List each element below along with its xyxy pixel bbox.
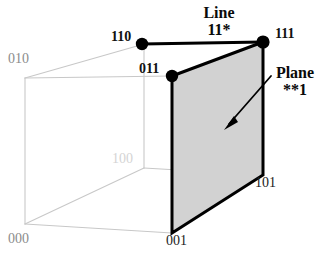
- annotation-plane-title: Plane: [264, 65, 326, 82]
- vertex-label-110: 110: [111, 30, 131, 44]
- figure-canvas: 010 110 011 111 100 101 000 001 Line 11*…: [0, 0, 330, 254]
- line-11star-segment: [142, 42, 263, 44]
- annotation-plane: Plane **1: [264, 65, 326, 99]
- annotation-plane-code: **1: [264, 82, 326, 99]
- vertex-label-001: 001: [166, 234, 187, 248]
- vertex-label-101: 101: [255, 176, 276, 190]
- vertex-label-011: 011: [139, 62, 159, 76]
- vertex-label-111: 111: [275, 27, 294, 41]
- edge-010-110: [25, 44, 144, 78]
- edge-000-100: [25, 168, 144, 224]
- edge-010-011-top: [25, 76, 172, 78]
- annotation-line-title: Line: [183, 5, 255, 22]
- annotation-line-code: 11*: [183, 22, 255, 39]
- edge-000-001-bottom: [25, 224, 172, 233]
- vertex-dot-111: [256, 35, 269, 48]
- vertex-label-000: 000: [8, 232, 29, 246]
- vertex-label-100: 100: [112, 152, 133, 166]
- vertex-label-010: 010: [8, 52, 29, 66]
- annotation-line: Line 11*: [183, 5, 255, 39]
- vertex-dot-110: [136, 38, 148, 50]
- vertex-dot-011: [166, 70, 178, 82]
